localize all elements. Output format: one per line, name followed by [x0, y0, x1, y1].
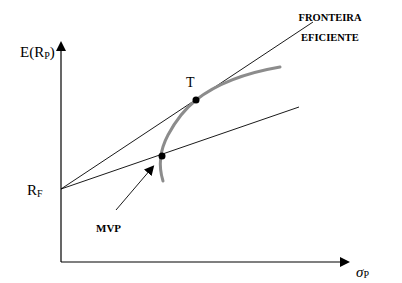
risk-free-label: RF: [27, 182, 43, 199]
y-axis-label: E(RP): [20, 44, 55, 61]
efficient-frontier-diagram: E(RP) σP RF T FRONTEIRA EFICIENTE MVP: [0, 0, 402, 283]
frontier-label-line1: FRONTEIRA: [298, 12, 361, 23]
x-axis-label: σP: [356, 264, 369, 280]
capital-allocation-line-mvp: [61, 107, 299, 189]
mvp-point: [159, 153, 166, 160]
mvp-arrow: [116, 169, 151, 210]
mvp-label: MVP: [96, 222, 121, 234]
tangency-label: T: [186, 75, 195, 90]
tangency-point: [193, 97, 200, 104]
frontier-label-line2: EFICIENTE: [301, 32, 359, 43]
efficient-frontier-curve: [160, 67, 280, 181]
capital-market-line-tangent: [61, 22, 313, 189]
